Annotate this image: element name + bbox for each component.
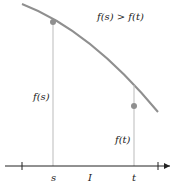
ft-label: f(t) (114, 134, 131, 145)
axis-arrow-icon (164, 163, 170, 169)
diagram-svg: f(s) > f(t) f(s) f(t) s I t (0, 0, 175, 189)
relation-label: f(s) > f(t) (96, 11, 144, 22)
diagram: f(s) > f(t) f(s) f(t) s I t (0, 0, 175, 189)
interval-label: I (87, 172, 93, 183)
s-label: s (51, 172, 56, 183)
t-label: t (132, 172, 137, 183)
point-fs (50, 19, 56, 25)
point-ft (131, 103, 137, 109)
fs-label: f(s) (32, 91, 50, 102)
